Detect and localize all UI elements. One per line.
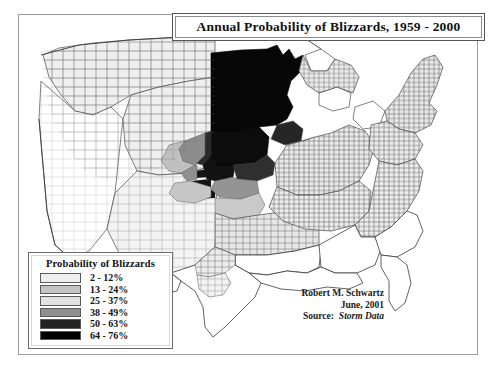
legend-item: 64 - 76% <box>40 330 172 342</box>
map-credit: Robert M. Schwartz June, 2001 Source:Sto… <box>256 288 384 323</box>
legend-label-25-37: 25 - 37% <box>90 295 128 306</box>
credit-date: June, 2001 <box>256 300 384 312</box>
map-legend: Probability of Blizzards 2 - 12% 13 - 24… <box>28 252 173 349</box>
map-title-box: Annual Probability of Blizzards, 1959 - … <box>172 13 485 41</box>
legend-item: 13 - 24% <box>40 284 172 296</box>
legend-swatch-38-49 <box>40 308 81 318</box>
page-title: Annual Probability of Blizzards, 1959 - … <box>197 19 461 35</box>
legend-item: 38 - 49% <box>40 307 172 319</box>
legend-swatch-64-76 <box>40 331 81 341</box>
legend-item: 25 - 37% <box>40 295 172 307</box>
legend-swatch-13-24 <box>40 285 81 295</box>
legend-title: Probability of Blizzards <box>29 258 172 269</box>
credit-source: Source:Storm Data <box>256 311 384 323</box>
legend-label-38-49: 38 - 49% <box>90 307 128 318</box>
legend-item: 50 - 63% <box>40 318 172 330</box>
legend-item: 2 - 12% <box>40 272 172 284</box>
legend-label-50-63: 50 - 63% <box>90 318 128 329</box>
legend-swatch-50-63 <box>40 319 81 329</box>
blizzard-probability-figure: Annual Probability of Blizzards, 1959 - … <box>0 0 500 373</box>
legend-swatch-2-12 <box>40 273 81 283</box>
legend-label-13-24: 13 - 24% <box>90 284 128 295</box>
legend-swatch-25-37 <box>40 296 81 306</box>
credit-source-label: Source: <box>303 311 334 321</box>
credit-author: Robert M. Schwartz <box>256 288 384 300</box>
legend-label-64-76: 64 - 76% <box>90 330 128 341</box>
credit-source-value: Storm Data <box>339 311 384 321</box>
legend-rows: 2 - 12% 13 - 24% 25 - 37% 38 - 49% 50 - … <box>29 272 172 341</box>
legend-label-2-12: 2 - 12% <box>90 272 123 283</box>
